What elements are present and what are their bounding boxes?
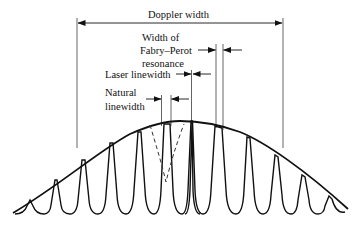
- fabry-perot-label-line1: Width of: [142, 32, 179, 44]
- natural-linewidth-dashed-profile: [150, 124, 184, 182]
- laser-linewidth-label: Laser linewidth: [105, 69, 171, 81]
- natural-linewidth-label-line2: linewidth: [105, 101, 145, 113]
- diagram-canvas: [0, 0, 359, 230]
- fabry-perot-label-line2: Fabry–Perot: [140, 45, 192, 57]
- doppler-width-dimension: [77, 18, 283, 148]
- fabry-perot-width-dimension: [198, 44, 242, 130]
- natural-linewidth-label-line1: Natural: [105, 87, 137, 99]
- doppler-width-label: Doppler width: [148, 9, 209, 21]
- laser-linewidth-dimension: [176, 70, 211, 124]
